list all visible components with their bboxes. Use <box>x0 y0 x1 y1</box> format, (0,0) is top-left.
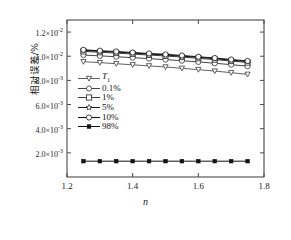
legend-marker-icon <box>78 103 100 112</box>
y-tick-label: 1.0×10-2 <box>19 51 63 62</box>
y-tick-label: 6.0×10-3 <box>19 100 63 111</box>
legend-marker-icon <box>78 74 100 83</box>
legend-item[interactable]: 98% <box>78 122 121 132</box>
legend-label: 98% <box>102 122 119 131</box>
legend-marker-icon <box>78 84 100 93</box>
legend-item[interactable]: 0.1% <box>78 84 121 94</box>
y-axis-label: 相对误差/% <box>27 29 41 109</box>
y-tick-label: 8.0×10-3 <box>19 75 63 86</box>
y-tick-label: 2.0×10-3 <box>19 148 63 159</box>
legend-marker-icon <box>78 113 100 122</box>
legend-marker-icon <box>78 93 100 102</box>
chart-legend: T10.1%1%5%10%98% <box>78 74 121 132</box>
legend-item[interactable]: 5% <box>78 103 121 113</box>
legend-label: 5% <box>102 103 114 112</box>
legend-item[interactable]: 1% <box>78 93 121 103</box>
y-tick-label: 1.2×10-2 <box>19 27 63 38</box>
legend-marker-icon <box>78 122 100 131</box>
x-tick-label: 1.2 <box>52 181 82 191</box>
x-axis-label: n <box>0 196 291 207</box>
series-98 <box>82 159 250 163</box>
x-tick-label: 1.8 <box>249 181 279 191</box>
y-tick-label: 4.0×10-3 <box>19 124 63 135</box>
x-tick-label: 1.4 <box>118 181 148 191</box>
x-tick-label: 1.6 <box>183 181 213 191</box>
